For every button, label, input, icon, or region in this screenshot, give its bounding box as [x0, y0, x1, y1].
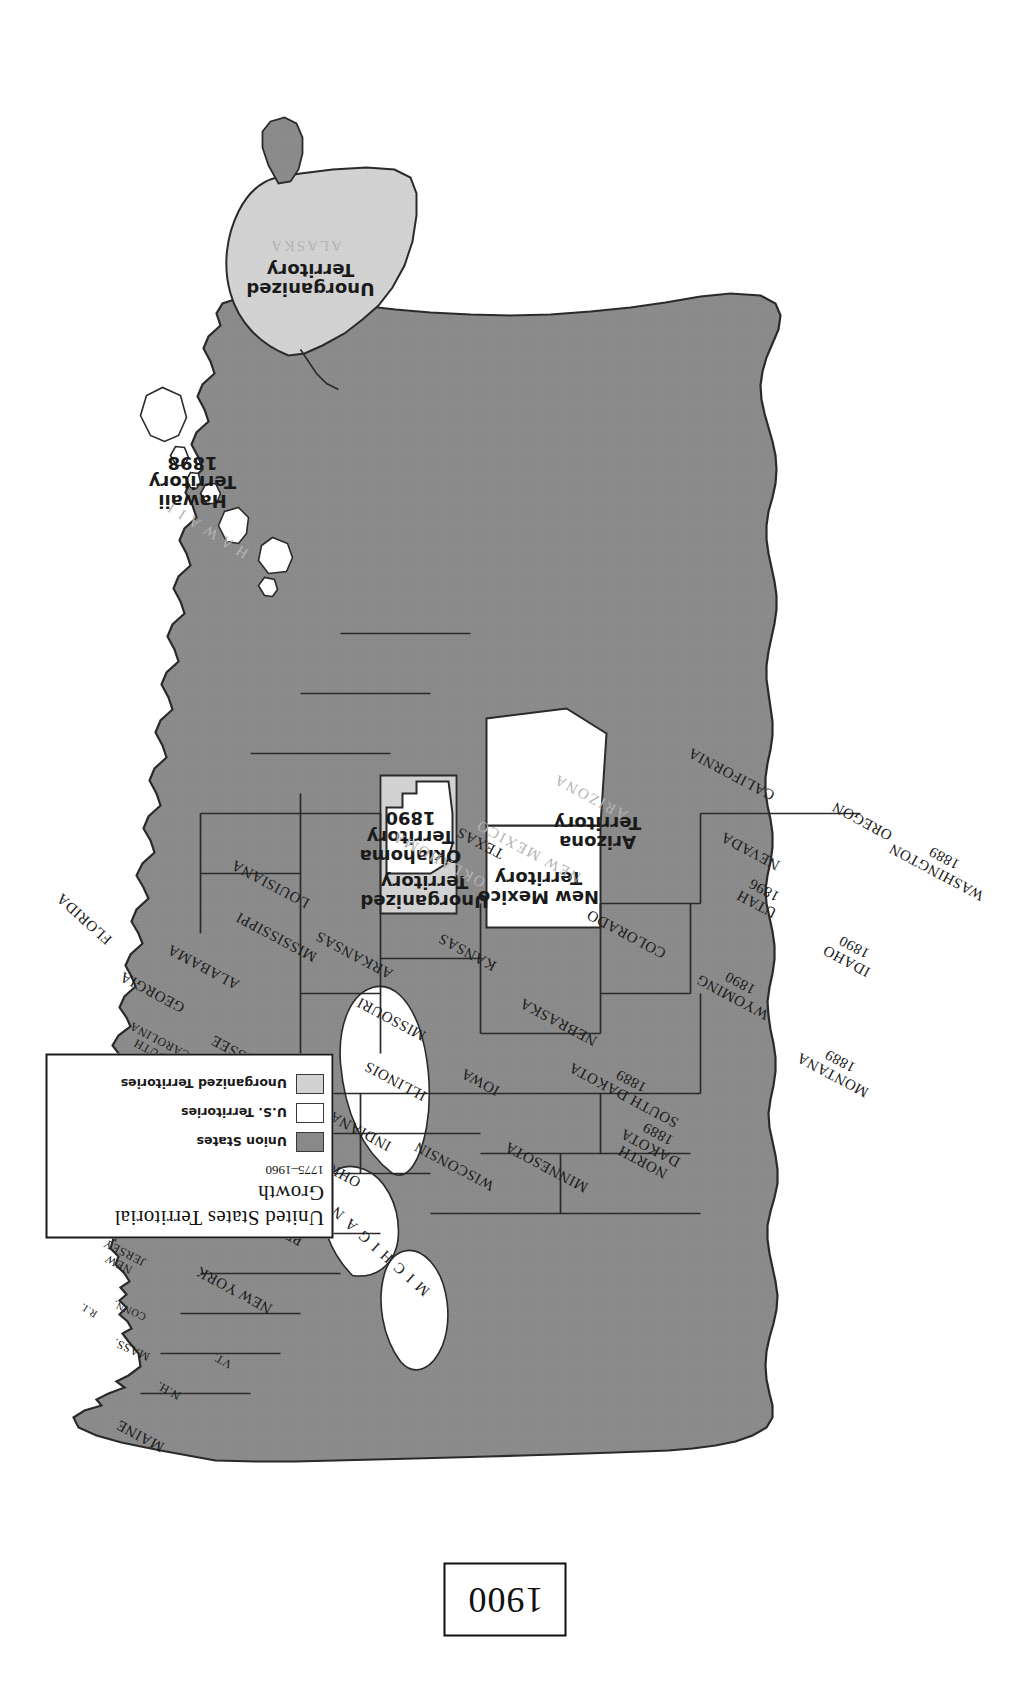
- legend-title: United States Territorial Growth: [47, 1180, 323, 1230]
- legend-label-us-territories: U.S. Territories: [180, 1106, 286, 1121]
- map-label-arizona-territory-territory: ArizonaTerritory: [553, 813, 641, 851]
- legend-inner: United States Territorial Growth 1775–19…: [47, 1055, 331, 1236]
- legend-swatch-us-territories: [295, 1103, 323, 1123]
- legend-entry-union-states: Union States: [47, 1132, 323, 1152]
- map-year-box: 1900: [443, 1562, 566, 1636]
- map-label-unorganized-territory-territory: UnorganizedTerritory: [246, 260, 374, 298]
- legend-label-union-states: Union States: [196, 1135, 286, 1150]
- map-label-alaska-ghost: ALASKA: [269, 237, 342, 253]
- legend-entry-unorganized-territories: Unorganized Territories: [47, 1074, 323, 1094]
- legend-entry-us-territories: U.S. Territories: [47, 1103, 323, 1123]
- map-canvas: MAINEVT.N.H.MASS.CONN.R.I.NEW YORKNEWJER…: [0, 0, 1021, 1693]
- map-rotator: MAINEVT.N.H.MASS.CONN.R.I.NEW YORKNEWJER…: [0, 0, 1021, 1693]
- legend-swatch-union-states: [295, 1132, 323, 1152]
- map-legend: United States Territorial Growth 1775–19…: [45, 1053, 333, 1238]
- legend-subtitle: 1775–1960: [47, 1162, 323, 1178]
- map-label-hawaii-territory-1898-territory: HawaiiTerritory1898: [148, 453, 236, 510]
- legend-swatch-unorganized-territories: [295, 1074, 323, 1094]
- legend-label-unorganized-territories: Unorganized Territories: [120, 1077, 286, 1092]
- map-year-label: 1900: [467, 1578, 543, 1620]
- map-page: MAINEVT.N.H.MASS.CONN.R.I.NEW YORKNEWJER…: [0, 0, 1021, 1693]
